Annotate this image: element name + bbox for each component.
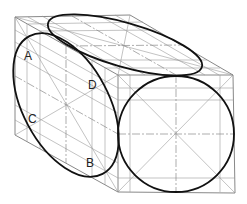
label-a: A xyxy=(24,49,32,63)
label-d: D xyxy=(88,78,97,92)
label-c: C xyxy=(28,112,37,126)
inscribed-curves xyxy=(0,2,234,194)
label-b: B xyxy=(86,156,94,170)
isometric-cube-drawing: A D C B xyxy=(0,0,247,204)
cube-outline xyxy=(15,15,235,193)
left-face-ellipse xyxy=(0,16,141,194)
left-face-grid xyxy=(15,17,118,192)
